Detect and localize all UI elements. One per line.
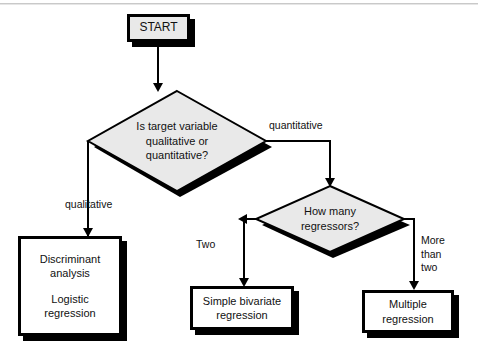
edge-label-two: Two [196, 238, 215, 252]
connector-qualitative [87, 141, 89, 236]
node-qualitative-methods-label: Discriminant analysisLogistic regression [36, 252, 105, 319]
node-qualitative-methods-line2: Logistic regression [44, 293, 95, 319]
connector-more-vertical [413, 218, 415, 286]
node-multiple-regression-label: Multiple regression [378, 297, 437, 325]
arrow-more-than-two [409, 281, 419, 290]
node-simple-bivariate-label: Simple bivariate regression [199, 294, 285, 322]
connector-start-to-decision-target [157, 47, 159, 87]
flowchart-canvas: START Is target variable qualitative or … [0, 0, 478, 356]
node-multiple-regression[interactable]: Multiple regression [362, 290, 454, 333]
node-start-label: START [135, 20, 181, 35]
edge-label-more-than-two: More than two [421, 234, 445, 275]
label-gap [40, 281, 101, 292]
node-qualitative-methods-line1: Discriminant analysis [40, 253, 101, 279]
node-start[interactable]: START [127, 14, 190, 42]
connector-two-vertical [243, 218, 245, 284]
node-decision-regressors[interactable]: How many regressors? [256, 186, 404, 252]
edge-label-qualitative: qualitative [65, 198, 112, 212]
edge-label-quantitative: quantitative [269, 119, 323, 133]
connector-quantitative-horizontal [265, 140, 331, 142]
node-qualitative-methods[interactable]: Discriminant analysisLogistic regression [18, 236, 122, 336]
node-simple-bivariate[interactable]: Simple bivariate regression [190, 286, 294, 330]
page-top-rule-secondary [0, 4, 478, 5]
node-decision-target[interactable]: Is target variable qualitative or quanti… [88, 91, 266, 191]
